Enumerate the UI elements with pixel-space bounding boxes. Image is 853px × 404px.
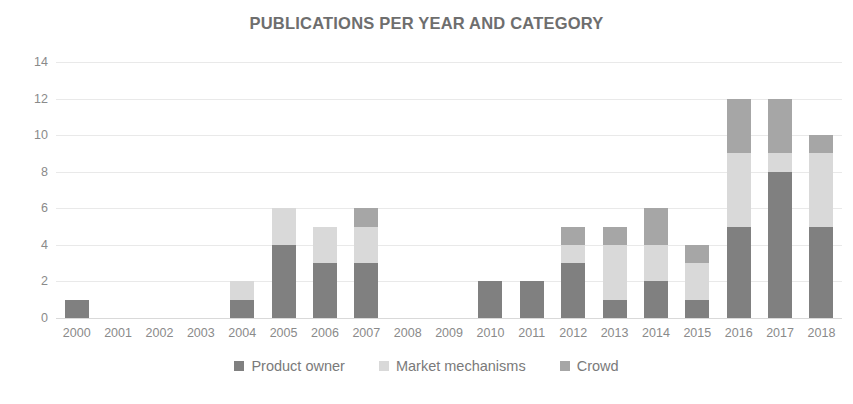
x-axis-tick-label: 2009	[428, 322, 469, 344]
bar-segment[interactable]	[727, 153, 751, 226]
bar-segment[interactable]	[768, 153, 792, 171]
bar-series-group	[56, 62, 842, 318]
bar-segment[interactable]	[685, 300, 709, 318]
bar-segment[interactable]	[230, 300, 254, 318]
bar-slot-2018	[801, 62, 842, 318]
y-axis-tick-label: 6	[8, 202, 48, 215]
bar-segment[interactable]	[313, 227, 337, 264]
bar-segment[interactable]	[520, 281, 544, 318]
legend-label: Crowd	[577, 358, 619, 374]
bar-segment[interactable]	[644, 208, 668, 245]
chart-container: PUBLICATIONS PER YEAR AND CATEGORY 02468…	[0, 0, 853, 404]
bar-segment[interactable]	[685, 245, 709, 263]
bar-segment[interactable]	[230, 281, 254, 299]
stacked-bar[interactable]	[520, 281, 544, 318]
bar-segment[interactable]	[603, 300, 627, 318]
bar-segment[interactable]	[644, 245, 668, 282]
x-axis-tick-label: 2015	[677, 322, 718, 344]
bar-segment[interactable]	[561, 227, 585, 245]
bar-slot-2014	[635, 62, 676, 318]
legend-label: Market mechanisms	[396, 358, 526, 374]
x-axis-tick-label: 2002	[139, 322, 180, 344]
x-axis-tick-label: 2011	[511, 322, 552, 344]
bar-segment[interactable]	[768, 99, 792, 154]
stacked-bar[interactable]	[727, 99, 751, 318]
bar-slot-2009	[428, 62, 469, 318]
legend-swatch-icon	[234, 361, 244, 371]
y-axis-tick-label: 0	[8, 312, 48, 325]
gridline-0	[56, 318, 842, 319]
bar-slot-2005	[263, 62, 304, 318]
bar-segment[interactable]	[561, 245, 585, 263]
x-axis-tick-label: 2014	[635, 322, 676, 344]
bar-segment[interactable]	[809, 153, 833, 226]
bar-segment[interactable]	[561, 263, 585, 318]
y-axis-tick-label: 4	[8, 239, 48, 252]
bar-slot-2007	[346, 62, 387, 318]
stacked-bar[interactable]	[478, 281, 502, 318]
stacked-bar[interactable]	[809, 135, 833, 318]
bar-slot-2017	[759, 62, 800, 318]
x-axis-tick-label: 2018	[801, 322, 842, 344]
stacked-bar[interactable]	[561, 227, 585, 318]
bar-slot-2001	[97, 62, 138, 318]
bar-segment[interactable]	[272, 208, 296, 245]
bar-segment[interactable]	[644, 281, 668, 318]
legend-swatch-icon	[379, 361, 389, 371]
stacked-bar[interactable]	[65, 300, 89, 318]
x-axis-tick-label: 2008	[387, 322, 428, 344]
bar-segment[interactable]	[313, 263, 337, 318]
x-axis-tick-label: 2013	[594, 322, 635, 344]
bar-segment[interactable]	[809, 227, 833, 318]
bar-segment[interactable]	[65, 300, 89, 318]
legend-item[interactable]: Market mechanisms	[379, 358, 526, 374]
legend-swatch-icon	[560, 361, 570, 371]
x-axis-tick-label: 2016	[718, 322, 759, 344]
x-axis-tick-label: 2010	[470, 322, 511, 344]
bar-slot-2000	[56, 62, 97, 318]
stacked-bar[interactable]	[230, 281, 254, 318]
x-axis-tick-label: 2004	[222, 322, 263, 344]
bar-segment[interactable]	[809, 135, 833, 153]
legend-item[interactable]: Product owner	[234, 358, 345, 374]
x-axis-tick-label: 2017	[759, 322, 800, 344]
bar-slot-2013	[594, 62, 635, 318]
bar-segment[interactable]	[478, 281, 502, 318]
bar-segment[interactable]	[603, 227, 627, 245]
bar-slot-2016	[718, 62, 759, 318]
chart-legend: Product ownerMarket mechanismsCrowd	[0, 358, 853, 374]
bar-segment[interactable]	[272, 245, 296, 318]
bar-segment[interactable]	[354, 208, 378, 226]
stacked-bar[interactable]	[313, 227, 337, 318]
bar-slot-2011	[511, 62, 552, 318]
x-axis-tick-label: 2000	[56, 322, 97, 344]
legend-item[interactable]: Crowd	[560, 358, 619, 374]
stacked-bar[interactable]	[685, 245, 709, 318]
stacked-bar[interactable]	[644, 208, 668, 318]
y-axis: 02468101214	[0, 62, 48, 318]
stacked-bar[interactable]	[603, 227, 627, 318]
bar-slot-2015	[677, 62, 718, 318]
chart-title: PUBLICATIONS PER YEAR AND CATEGORY	[0, 14, 853, 33]
bar-segment[interactable]	[354, 227, 378, 264]
x-axis-tick-label: 2012	[553, 322, 594, 344]
x-axis: 2000200120022003200420052006200720082009…	[56, 322, 842, 344]
x-axis-tick-label: 2005	[263, 322, 304, 344]
y-axis-tick-label: 12	[8, 92, 48, 105]
bar-segment[interactable]	[354, 263, 378, 318]
bar-segment[interactable]	[727, 227, 751, 318]
y-axis-tick-label: 2	[8, 275, 48, 288]
x-axis-tick-label: 2003	[180, 322, 221, 344]
stacked-bar[interactable]	[768, 99, 792, 318]
stacked-bar[interactable]	[354, 208, 378, 318]
x-axis-tick-label: 2006	[304, 322, 345, 344]
x-axis-tick-label: 2001	[97, 322, 138, 344]
stacked-bar[interactable]	[272, 208, 296, 318]
bar-segment[interactable]	[727, 99, 751, 154]
x-axis-tick-label: 2007	[346, 322, 387, 344]
bar-segment[interactable]	[768, 172, 792, 318]
y-axis-tick-label: 8	[8, 165, 48, 178]
bar-slot-2012	[553, 62, 594, 318]
bar-segment[interactable]	[603, 245, 627, 300]
bar-segment[interactable]	[685, 263, 709, 300]
